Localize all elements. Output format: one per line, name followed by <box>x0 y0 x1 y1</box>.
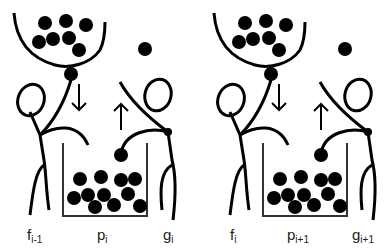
panel-left <box>13 13 175 220</box>
label-p-right: pi+1 <box>287 226 309 245</box>
label-g-left: gi <box>163 226 174 245</box>
label-g-right: gi+1 <box>352 226 374 245</box>
panel-right <box>213 13 375 220</box>
label-p-left: pi <box>97 226 108 245</box>
label-f-left: fi-1 <box>27 226 42 245</box>
label-f-right: fi <box>230 226 236 245</box>
diagram-canvas <box>0 0 389 251</box>
